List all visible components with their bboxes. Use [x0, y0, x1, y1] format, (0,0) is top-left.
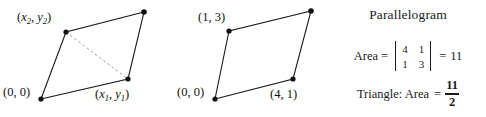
- equals-sign-2: =: [439, 49, 446, 64]
- triangle-area-fraction: 11 2: [445, 79, 459, 109]
- parallelogram-numeric-outline: [215, 11, 311, 99]
- determinant-grid: 4 1 1 3: [396, 41, 430, 71]
- subscript-2b: 2: [43, 16, 47, 26]
- determinant-matrix: 4 1 1 3: [395, 41, 431, 71]
- vertex-dot-origin: [38, 96, 43, 101]
- label-vertex-1-3: (1, 3): [198, 11, 225, 24]
- vertex-dot-1-3: [226, 28, 231, 33]
- parallelogram-general: [38, 9, 146, 101]
- determinant-bar-right: [430, 41, 431, 71]
- label-vertex-x2y2: (x2, y2): [17, 11, 51, 24]
- fraction-numerator: 11: [445, 79, 459, 92]
- figure-canvas: (x2, y2) (0, 0) (x1, y1) (1, 3) (0, 0) (…: [0, 0, 486, 117]
- label-vertex-origin-2: (0, 0): [177, 86, 204, 99]
- paren-close-2: ): [125, 87, 129, 101]
- var-y: y: [37, 10, 43, 24]
- label-vertex-x1y1: (x1, y1): [95, 88, 129, 101]
- vertex-dot-x2y2: [63, 29, 68, 34]
- vertex-dot-origin-2: [212, 96, 217, 101]
- vertex-dot-x1y1: [125, 76, 130, 81]
- diagonal-dashed-line: [66, 32, 128, 79]
- parallelogram-numeric: [212, 8, 313, 101]
- matrix-cell-r1c1: 3: [419, 57, 425, 71]
- subscript-1: 1: [105, 93, 109, 103]
- equals-sign-3: =: [434, 87, 441, 102]
- area-formula-row: Area = 4 1 1 3 = 11: [330, 41, 486, 71]
- matrix-cell-r1c0: 1: [402, 57, 408, 71]
- label-vertex-4-1: (4, 1): [270, 88, 297, 101]
- fraction-denominator: 2: [448, 96, 456, 109]
- matrix-cell-r0c0: 4: [402, 42, 408, 56]
- var-x: x: [21, 10, 27, 24]
- vertex-dot-topright-2: [308, 8, 314, 14]
- equals-sign-1: =: [381, 49, 388, 64]
- parallelogram-general-outline: [41, 12, 144, 99]
- vertex-dot-topright: [141, 9, 147, 15]
- area-label: Area: [354, 49, 378, 64]
- matrix-cell-r0c1: 1: [419, 42, 425, 56]
- label-vertex-origin-1: (0, 0): [3, 86, 30, 99]
- area-value: 11: [450, 49, 462, 64]
- formula-panel: Parallelogram Area = 4 1 1 3 = 11 Triang…: [330, 0, 486, 117]
- paren-close: ): [47, 10, 51, 24]
- var-x-2: x: [99, 87, 105, 101]
- subscript-2: 2: [27, 16, 31, 26]
- var-y-2: y: [115, 87, 121, 101]
- subscript-1b: 1: [121, 93, 125, 103]
- triangle-formula-row: Triangle: Area = 11 2: [330, 80, 486, 110]
- vertex-dot-4-1: [290, 76, 295, 81]
- heading-parallelogram: Parallelogram: [330, 7, 486, 23]
- triangle-area-label: Triangle: Area: [357, 87, 429, 102]
